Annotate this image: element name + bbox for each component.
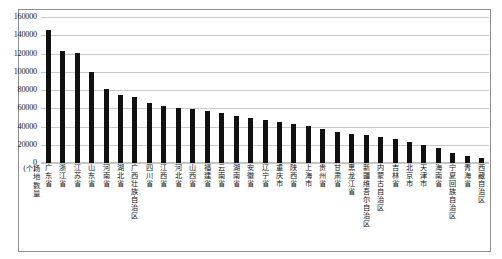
bar xyxy=(349,134,354,163)
bar xyxy=(335,132,340,163)
bar xyxy=(176,108,181,163)
x-tick-label: 吉林省 xyxy=(391,164,400,188)
x-tick-label: 新疆维吾尔自治区 xyxy=(362,164,371,228)
x-tick-label: 云南省 xyxy=(217,164,226,188)
x-tick-label: 江苏省 xyxy=(73,164,82,188)
x-tick-label: 浙江省 xyxy=(58,164,67,188)
x-tick-label: 上海市 xyxy=(304,164,313,188)
bar xyxy=(421,145,426,163)
x-tick-label: 陕西省 xyxy=(289,164,298,188)
bar xyxy=(436,148,441,164)
bar xyxy=(60,51,65,163)
bar xyxy=(364,135,369,163)
x-tick-label: 宁夏回族自治区 xyxy=(448,164,457,220)
bar xyxy=(118,95,123,163)
bar xyxy=(393,139,398,163)
x-tick-label: 山西省 xyxy=(188,164,197,188)
bar xyxy=(407,142,412,163)
bar xyxy=(104,89,109,163)
x-tick-label: 河北省 xyxy=(174,164,183,188)
x-tick-label: 四川省 xyxy=(145,164,154,188)
x-tick-label: 青海省 xyxy=(463,164,472,188)
y-tick-label: 60000 xyxy=(18,104,37,112)
x-tick-label: 重庆市 xyxy=(275,164,284,188)
y-axis-ticks: 1600001400001200001000008000060000400002… xyxy=(0,17,37,163)
x-tick-label: 湖南省 xyxy=(232,164,241,188)
bar xyxy=(234,116,239,163)
bar xyxy=(75,53,80,163)
bar xyxy=(277,122,282,163)
bar xyxy=(306,126,311,163)
x-tick-label: 贵州省 xyxy=(318,164,327,188)
bar xyxy=(465,156,470,163)
x-tick-label: 广东省 xyxy=(44,164,53,188)
bar xyxy=(205,111,210,163)
y-tick-label: 40000 xyxy=(18,122,37,130)
bar xyxy=(450,153,455,163)
bar xyxy=(320,129,325,163)
bar xyxy=(132,97,137,163)
bar xyxy=(378,137,383,163)
x-tick-label: 河南省 xyxy=(102,164,111,188)
x-tick-label: 西藏自治区 xyxy=(477,164,486,204)
x-tick-label: 海南省 xyxy=(434,164,443,188)
bar xyxy=(46,30,51,163)
y-tick-label: 20000 xyxy=(18,141,37,149)
y-tick-label: 100000 xyxy=(14,68,37,76)
x-tick-label: 湖北省 xyxy=(116,164,125,188)
bar xyxy=(161,106,166,163)
x-tick-label: 山东省 xyxy=(87,164,96,188)
y-tick-label: 140000 xyxy=(14,31,37,39)
x-tick-label: 黑龙江省 xyxy=(347,164,356,196)
x-tick-label: 北京市 xyxy=(405,164,414,188)
bar xyxy=(219,113,224,163)
y-tick-label: 120000 xyxy=(14,49,37,57)
y-axis-title: 场地数量(个) xyxy=(17,165,41,199)
bar xyxy=(89,72,94,163)
x-tick-label: 安徽省 xyxy=(246,164,255,188)
bar xyxy=(147,103,152,163)
bar xyxy=(190,109,195,163)
y-axis-title-column: 场地数量 xyxy=(32,165,41,199)
x-tick-label: 福建省 xyxy=(203,164,212,188)
x-tick-label: 广西壮族自治区 xyxy=(130,164,139,220)
x-axis-labels: 广东省浙江省江苏省山东省河南省湖北省广西壮族自治区四川省江西省河北省山西省福建省… xyxy=(41,164,489,254)
y-tick-label: 160000 xyxy=(14,13,37,21)
x-tick-label: 江西省 xyxy=(159,164,168,188)
bar xyxy=(291,124,296,163)
x-tick-label: 甘肃省 xyxy=(333,164,342,188)
plot-area xyxy=(41,17,489,163)
x-tick-label: 天津市 xyxy=(419,164,428,188)
y-tick-label: 80000 xyxy=(18,86,37,94)
x-tick-label: 内蒙古自治区 xyxy=(376,164,385,212)
venue-count-bar-chart: 1600001400001200001000008000060000400002… xyxy=(0,0,502,259)
bar xyxy=(263,120,268,163)
bar xyxy=(248,118,253,163)
bar-series xyxy=(41,17,489,163)
x-tick-label: 辽宁省 xyxy=(261,164,270,188)
y-axis-title-column: (个) xyxy=(23,165,32,199)
